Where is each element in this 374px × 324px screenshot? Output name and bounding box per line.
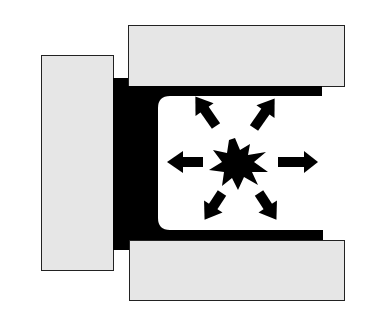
- arrow-up-left-icon: [186, 90, 225, 132]
- arrow-down-left-icon: [195, 187, 231, 226]
- arrow-left-icon: [167, 151, 203, 173]
- diagram-canvas: [0, 0, 374, 324]
- top-block: [129, 26, 345, 87]
- arrow-up-right-icon: [245, 92, 284, 134]
- arrow-down-right-icon: [250, 187, 286, 226]
- left-block: [42, 56, 114, 271]
- explosion-starburst-icon: [209, 138, 268, 190]
- arrow-right-icon: [278, 151, 318, 173]
- bottom-block: [130, 241, 345, 301]
